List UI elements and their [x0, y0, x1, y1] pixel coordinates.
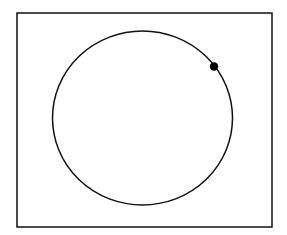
- diagram-canvas: [0, 0, 287, 235]
- point-marker: [210, 62, 218, 70]
- frame-border: [17, 13, 272, 227]
